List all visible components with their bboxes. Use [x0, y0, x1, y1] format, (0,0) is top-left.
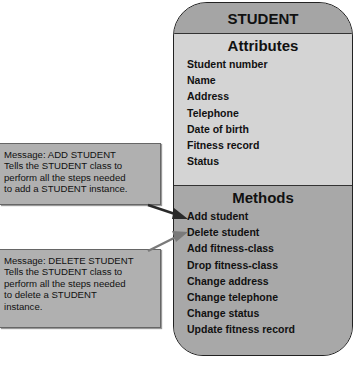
arrow-delete-student: [148, 231, 188, 251]
message-arrows: [0, 0, 357, 365]
arrow-add-student: [148, 205, 188, 219]
